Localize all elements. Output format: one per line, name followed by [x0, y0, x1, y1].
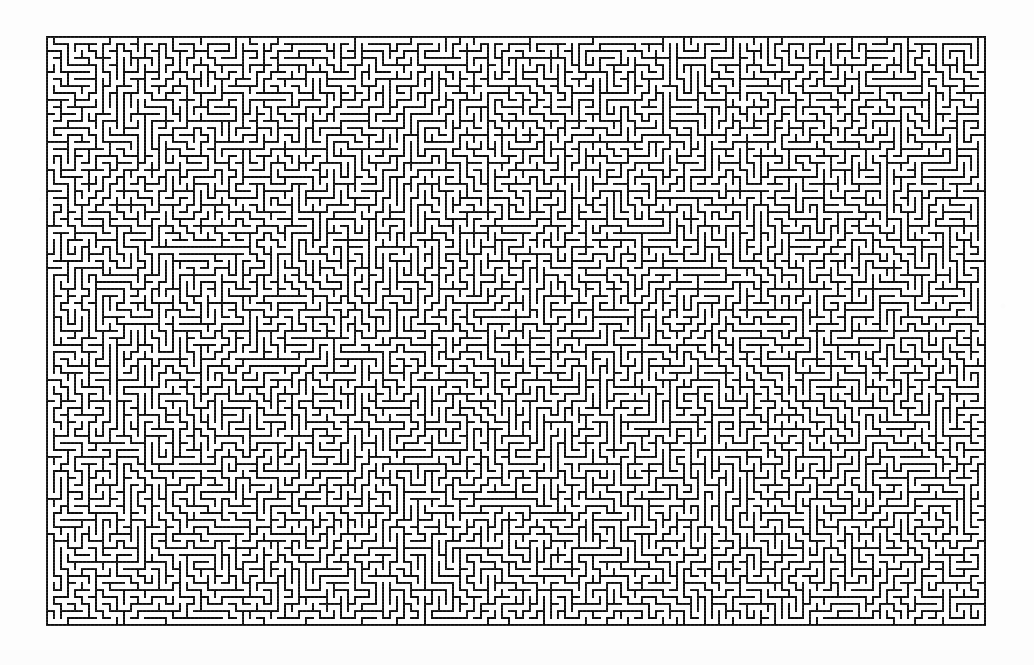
maze-walls: [47, 37, 985, 625]
maze-figure: [46, 36, 986, 626]
page-canvas: [0, 0, 1034, 665]
maze-grid: [46, 36, 986, 626]
